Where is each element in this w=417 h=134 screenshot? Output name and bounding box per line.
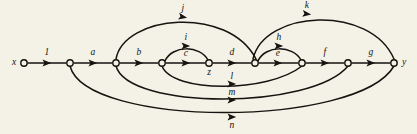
edge-label-f: f: [324, 48, 327, 58]
arrowhead-j: [178, 13, 188, 21]
edge-label-m: m: [228, 88, 235, 98]
edge-label-b: b: [137, 48, 142, 58]
edge-label-1: 1: [45, 48, 50, 58]
edge-label-j: j: [182, 4, 185, 14]
edge-label-e: e: [276, 49, 280, 59]
edge-label-k: k: [305, 1, 309, 11]
graph-node-n2: [113, 60, 119, 66]
graph-node-x: [21, 60, 27, 66]
node-label-x: x: [12, 58, 16, 68]
edge-label-g: g: [369, 48, 374, 58]
graph-node-n6: [345, 60, 351, 66]
graph-node-n5: [299, 60, 305, 66]
arrowhead-k: [302, 10, 311, 18]
edge-label-l: l: [231, 72, 234, 82]
graph-diagram-figure: 1abcdefgihjklmnxzy: [0, 0, 417, 134]
edge-label-c: c: [184, 49, 188, 59]
graph-node-n4: [252, 60, 258, 66]
edge-label-d: d: [230, 48, 235, 58]
graph-node-y: [391, 60, 397, 66]
graph-node-n1: [67, 60, 73, 66]
graph-node-n3: [159, 60, 165, 66]
edge-label-i: i: [185, 33, 188, 43]
edge-label-h: h: [277, 33, 282, 43]
graph-node-z: [206, 60, 212, 66]
node-label-y: y: [402, 58, 406, 68]
node-label-z: z: [207, 68, 211, 78]
edge-label-a: a: [91, 48, 96, 58]
edge-label-n: n: [230, 121, 235, 131]
